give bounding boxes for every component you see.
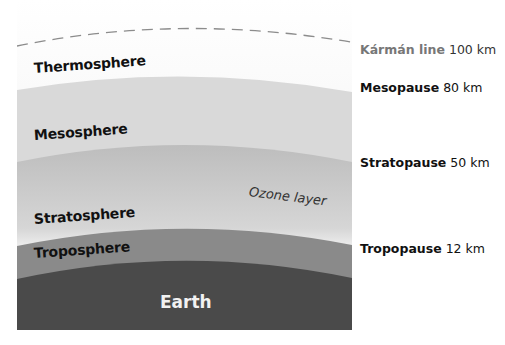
boundary-name: Kármán line — [360, 42, 445, 57]
boundary-altitude: 50 km — [450, 155, 489, 170]
stratopause-annotation: Stratopause 50 km — [360, 155, 490, 170]
boundary-altitude: 80 km — [443, 80, 482, 95]
boundary-name: Mesopause — [360, 80, 439, 95]
tropopause-annotation: Tropopause 12 km — [360, 241, 485, 256]
boundary-altitude: 100 km — [449, 42, 496, 57]
boundary-altitude: 12 km — [446, 241, 485, 256]
mesopause-annotation: Mesopause 80 km — [360, 80, 482, 95]
boundary-name: Tropopause — [360, 241, 442, 256]
earth-label: Earth — [160, 292, 212, 312]
atmosphere-layers-graphic — [17, 0, 352, 330]
karman-line-annotation: Kármán line 100 km — [360, 42, 496, 57]
boundary-name: Stratopause — [360, 155, 446, 170]
atmosphere-diagram: Thermosphere Mesosphere Ozone layer Stra… — [17, 0, 352, 330]
